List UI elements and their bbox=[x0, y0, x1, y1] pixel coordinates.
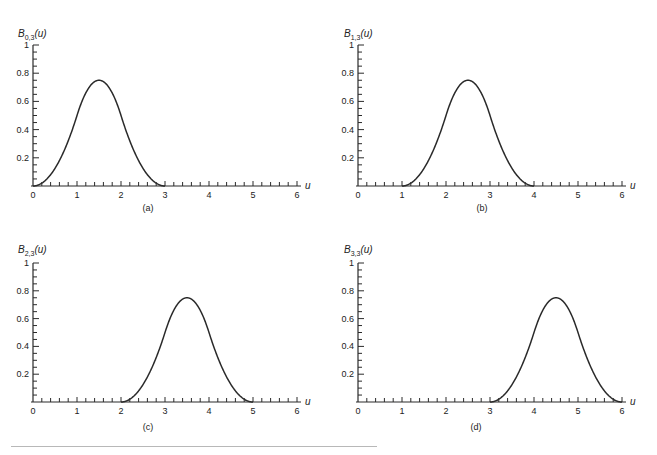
basis-curve bbox=[33, 80, 165, 186]
x-tick-label: 3 bbox=[162, 190, 167, 200]
y-tick-label: 0.6 bbox=[16, 96, 29, 106]
y-tick-label: 0.8 bbox=[16, 68, 29, 78]
x-tick-label: 5 bbox=[250, 406, 255, 416]
y-tick-label: 0.6 bbox=[341, 314, 354, 324]
x-tick-label: 6 bbox=[619, 406, 624, 416]
x-tick-label: 1 bbox=[74, 190, 79, 200]
y-tick-label: 0.2 bbox=[341, 153, 354, 163]
y-tick-label: 1 bbox=[349, 40, 354, 50]
x-axis-label: u bbox=[630, 396, 636, 407]
panel-label: (c) bbox=[143, 422, 154, 432]
y-tick-label: 1 bbox=[349, 258, 354, 268]
x-tick-label: 2 bbox=[118, 190, 123, 200]
x-tick-label: 4 bbox=[206, 406, 211, 416]
y-tick-label: 0.4 bbox=[341, 125, 354, 135]
x-tick-label: 4 bbox=[531, 190, 536, 200]
x-tick-label: 4 bbox=[531, 406, 536, 416]
y-tick-label: 0.8 bbox=[16, 286, 29, 296]
panel-c: 01234560.20.40.60.81uB2,3(u)(c) bbox=[16, 244, 311, 432]
panel-b: 01234560.20.40.60.81uB1,3(u)(b) bbox=[341, 28, 636, 213]
y-tick-label: 0.6 bbox=[16, 314, 29, 324]
y-tick-label: 0.8 bbox=[341, 286, 354, 296]
x-tick-label: 6 bbox=[294, 406, 299, 416]
y-tick-label: 0.2 bbox=[16, 153, 29, 163]
y-tick-label: 0.4 bbox=[341, 341, 354, 351]
x-tick-label: 1 bbox=[399, 406, 404, 416]
y-axis-title: B0,3(u) bbox=[18, 28, 47, 41]
basis-curve bbox=[490, 298, 622, 402]
y-tick-label: 0.4 bbox=[16, 125, 29, 135]
x-tick-label: 0 bbox=[30, 190, 35, 200]
x-tick-label: 5 bbox=[575, 406, 580, 416]
x-tick-label: 5 bbox=[575, 190, 580, 200]
horizontal-rule bbox=[11, 446, 377, 447]
x-tick-label: 0 bbox=[30, 406, 35, 416]
x-tick-label: 6 bbox=[294, 190, 299, 200]
x-tick-label: 3 bbox=[487, 190, 492, 200]
x-tick-label: 2 bbox=[443, 406, 448, 416]
panel-label: (d) bbox=[471, 422, 482, 432]
y-tick-label: 0.4 bbox=[16, 341, 29, 351]
x-axis-label: u bbox=[630, 180, 636, 191]
panel-d: 01234560.20.40.60.81uB3,3(u)(d) bbox=[341, 244, 636, 432]
y-axis-title: B2,3(u) bbox=[18, 244, 47, 257]
y-tick-label: 0.8 bbox=[341, 68, 354, 78]
x-tick-label: 2 bbox=[118, 406, 123, 416]
panel-label: (a) bbox=[143, 203, 154, 213]
x-axis-label: u bbox=[305, 180, 311, 191]
y-tick-label: 0.6 bbox=[341, 96, 354, 106]
y-tick-label: 1 bbox=[24, 40, 29, 50]
x-tick-label: 4 bbox=[206, 190, 211, 200]
y-tick-label: 0.2 bbox=[341, 369, 354, 379]
panel-a: 01234560.20.40.60.81uB0,3(u)(a) bbox=[16, 28, 311, 213]
x-tick-label: 1 bbox=[399, 190, 404, 200]
basis-curve bbox=[402, 80, 534, 186]
x-tick-label: 0 bbox=[355, 406, 360, 416]
x-axis-label: u bbox=[305, 396, 311, 407]
x-tick-label: 6 bbox=[619, 190, 624, 200]
y-axis-title: B3,3(u) bbox=[344, 244, 373, 257]
x-tick-label: 2 bbox=[443, 190, 448, 200]
x-tick-label: 0 bbox=[355, 190, 360, 200]
basis-curve bbox=[121, 298, 253, 402]
x-tick-label: 3 bbox=[162, 406, 167, 416]
y-tick-label: 0.2 bbox=[16, 369, 29, 379]
bspline-basis-figure: 01234560.20.40.60.81uB0,3(u)(a)01234560.… bbox=[0, 0, 657, 455]
panel-label: (b) bbox=[477, 203, 488, 213]
y-tick-label: 1 bbox=[24, 258, 29, 268]
chart-canvas: 01234560.20.40.60.81uB0,3(u)(a)01234560.… bbox=[0, 0, 657, 455]
x-tick-label: 3 bbox=[487, 406, 492, 416]
x-tick-label: 5 bbox=[250, 190, 255, 200]
x-tick-label: 1 bbox=[74, 406, 79, 416]
